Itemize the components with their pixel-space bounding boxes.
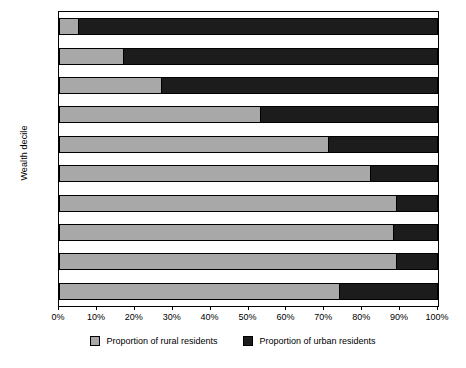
bar-row — [59, 283, 438, 300]
bar-row — [59, 195, 438, 212]
bar-row — [59, 224, 438, 241]
bar-segment — [59, 224, 393, 241]
bar-segment — [78, 18, 438, 35]
bar-row — [59, 136, 438, 153]
bar-segment — [59, 136, 328, 153]
bar-segment — [59, 253, 396, 270]
x-tick-mark — [361, 306, 362, 310]
bar-segment — [59, 195, 396, 212]
bar-segment — [393, 224, 438, 241]
bar-row — [59, 77, 438, 94]
x-tick-label: 60% — [276, 312, 294, 322]
x-tick-label: 40% — [201, 312, 219, 322]
plot-area: 0 (Highest)987654321 (Lowest) — [58, 11, 439, 307]
bar-row — [59, 18, 438, 35]
stacked-bar-chart: Wealth decile 0 (Highest)987654321 (Lowe… — [0, 0, 466, 368]
legend-swatch-icon — [243, 336, 253, 346]
bar-row — [59, 48, 438, 65]
x-tick-mark — [172, 306, 173, 310]
x-tick-mark — [210, 306, 211, 310]
x-tick-mark — [285, 306, 286, 310]
bar-row — [59, 106, 438, 123]
bar-row — [59, 253, 438, 270]
chart-legend: Proportion of rural residentsProportion … — [0, 336, 466, 346]
x-tick-label: 20% — [125, 312, 143, 322]
legend-label: Proportion of rural residents — [106, 336, 217, 346]
y-axis-title: Wealth decile — [19, 93, 29, 213]
bar-segment — [123, 48, 438, 65]
x-tick-mark — [323, 306, 324, 310]
x-tick-label: 50% — [238, 312, 256, 322]
bar-segment — [59, 18, 78, 35]
x-tick-mark — [399, 306, 400, 310]
legend-label: Proportion of urban residents — [259, 336, 375, 346]
bar-segment — [339, 283, 438, 300]
bar-segment — [59, 77, 161, 94]
x-tick-label: 70% — [314, 312, 332, 322]
x-tick-mark — [58, 306, 59, 310]
bar-row — [59, 165, 438, 182]
legend-swatch-icon — [90, 336, 100, 346]
bar-segment — [396, 195, 438, 212]
x-tick-mark — [248, 306, 249, 310]
x-tick-label: 0% — [51, 312, 64, 322]
legend-item-urban[interactable]: Proportion of urban residents — [243, 336, 375, 346]
x-tick-label: 10% — [87, 312, 105, 322]
bar-segment — [59, 283, 339, 300]
bar-segment — [59, 165, 370, 182]
bar-segment — [161, 77, 438, 94]
x-tick-mark — [437, 306, 438, 310]
bar-segment — [59, 106, 260, 123]
x-tick-mark — [96, 306, 97, 310]
x-tick-label: 100% — [425, 312, 448, 322]
bar-segment — [370, 165, 438, 182]
x-axis: 0%10%20%30%40%50%60%70%80%90%100% — [58, 306, 438, 330]
bar-segment — [260, 106, 438, 123]
x-tick-label: 30% — [163, 312, 181, 322]
x-tick-mark — [134, 306, 135, 310]
bar-segment — [59, 48, 123, 65]
legend-item-rural[interactable]: Proportion of rural residents — [90, 336, 217, 346]
bar-segment — [396, 253, 438, 270]
bar-segment — [328, 136, 438, 153]
x-tick-label: 80% — [352, 312, 370, 322]
x-tick-label: 90% — [390, 312, 408, 322]
